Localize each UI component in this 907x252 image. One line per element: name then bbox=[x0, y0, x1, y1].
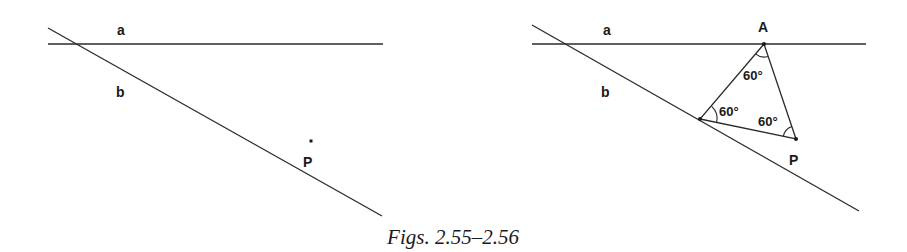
angle-arc-p bbox=[783, 127, 792, 137]
figure-2-56: a b A P 60° 60° 60° bbox=[532, 19, 866, 211]
line-b bbox=[532, 25, 859, 211]
point-b-dot bbox=[698, 117, 702, 121]
point-p-dot bbox=[794, 137, 798, 141]
line-b-label: b bbox=[601, 84, 610, 100]
figure-2-55: a b P bbox=[48, 22, 383, 216]
angle-a-label: 60° bbox=[743, 68, 763, 83]
line-b bbox=[48, 28, 382, 216]
angle-arc-a bbox=[756, 54, 768, 57]
angle-arc-b bbox=[712, 106, 717, 122]
figures-canvas: a b P a b A P 60° 60° 60° Figs. 2.55–2.5… bbox=[0, 0, 907, 252]
point-p-label: P bbox=[303, 154, 312, 170]
line-a-label: a bbox=[603, 22, 611, 38]
line-b-label: b bbox=[116, 84, 125, 100]
point-p-dot bbox=[310, 140, 313, 143]
equilateral-triangle bbox=[700, 44, 796, 139]
figure-caption: Figs. 2.55–2.56 bbox=[386, 225, 519, 249]
angle-b-label: 60° bbox=[719, 104, 739, 119]
angle-p-label: 60° bbox=[758, 114, 778, 129]
point-p-label: P bbox=[789, 152, 798, 168]
line-a-label: a bbox=[117, 22, 125, 38]
point-a-label: A bbox=[758, 19, 768, 35]
point-a-dot bbox=[762, 42, 766, 46]
